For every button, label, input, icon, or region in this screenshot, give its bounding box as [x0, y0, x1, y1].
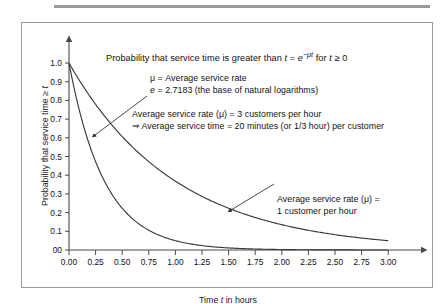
top-divider-rule: [54, 5, 430, 8]
callout-leader-mu1: [231, 184, 274, 210]
annotation-mu3-line-2: ⇒ Average service time = 20 minutes (or …: [132, 121, 384, 133]
chart-title-tail-lead: for: [313, 53, 329, 63]
y-axis-label-lead: Probability that service time ≥: [40, 89, 50, 206]
chart-title-tail-cond: ≥ 0: [332, 53, 347, 63]
annotation-definitions-line-2: e = 2.7183 (the base of natural logarith…: [150, 85, 318, 97]
annotation-mu3-line-1: Average service rate (μ) = 3 customers p…: [132, 109, 384, 121]
y-axis-label: Probability that service time ≥ t: [40, 71, 50, 221]
x-axis-label-tail: in hours: [223, 295, 257, 304]
x-axis-label: Time t in hours: [22, 295, 434, 304]
y-tick-label-1.0: 1.0: [24, 58, 62, 68]
chart-title-lead: Probability that service time is greater…: [106, 53, 284, 63]
x-tick-label-3.00: 3.00: [371, 257, 405, 267]
chart-title: Probability that service time is greater…: [106, 51, 347, 64]
y-axis-ticks: [65, 63, 69, 250]
y-axis-label-var: t: [40, 86, 50, 88]
euler-e-value: = 2.7183 (the base of natural logarithms…: [155, 85, 318, 95]
annotation-definitions: μ = Average service rate e = 2.7183 (the…: [150, 73, 318, 96]
annotation-mu1-callout: Average service rate (μ) = 1 customer pe…: [277, 194, 380, 217]
figure-page: Probability that service time is greater…: [0, 0, 448, 304]
plot-area: Probability that service time is greater…: [22, 23, 434, 289]
chart-title-exponent: −μt: [303, 51, 313, 59]
figure-frame: Probability that service time is greater…: [21, 22, 433, 288]
x-axis-ticks: [69, 250, 388, 255]
y-tick-label-0.1: 0.1: [24, 226, 62, 236]
chart-title-equals: =: [287, 53, 298, 63]
annotation-mu1-line-2: 1 customer per hour: [277, 206, 380, 218]
y-tick-label-0.0: 00: [24, 245, 62, 255]
annotation-mu1-line-1: Average service rate (μ) =: [277, 194, 380, 206]
annotation-definitions-line-1: μ = Average service rate: [150, 73, 318, 85]
x-axis-label-lead: Time: [199, 295, 221, 304]
annotation-mu3-callout: Average service rate (μ) = 3 customers p…: [132, 109, 384, 132]
